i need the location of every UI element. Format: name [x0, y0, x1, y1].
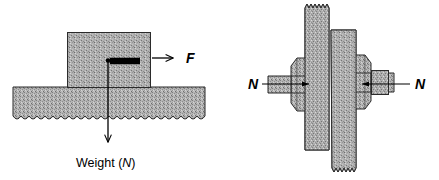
- figure-canvas: F Weight (N): [0, 0, 439, 180]
- applied-force-label: F: [186, 50, 195, 66]
- bolt-end: [372, 71, 389, 95]
- block-on-ground-friction-diagram: F Weight (N): [13, 33, 205, 171]
- ground-surface: [13, 87, 205, 119]
- plate-rear-overlay: [305, 4, 329, 150]
- bolted-joint-normal-force-diagram: N N: [248, 4, 426, 172]
- weight-label-suffix: ): [131, 156, 135, 170]
- normal-force-label-left: N: [248, 76, 259, 92]
- weight-label-prefix: Weight (: [76, 156, 123, 170]
- svg-text:Weight (N): Weight (N): [76, 156, 136, 170]
- weight-label: Weight (N): [76, 156, 136, 170]
- normal-force-label-right: N: [415, 76, 426, 92]
- plate-front-overlay: [331, 30, 356, 172]
- physics-figure: F Weight (N): [0, 0, 439, 180]
